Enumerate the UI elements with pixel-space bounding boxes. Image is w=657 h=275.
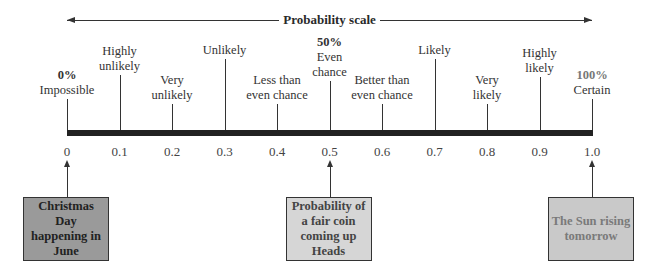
example-text: happening in <box>26 229 106 244</box>
descriptor-text: likely <box>432 88 542 103</box>
example-text: tomorrow <box>552 229 631 244</box>
tick-label: 1.0 <box>572 144 612 160</box>
tick-label: 0.7 <box>415 144 455 160</box>
descriptor-stem <box>172 104 173 130</box>
example-box: Christmas Dayhappening inJune <box>23 197 109 261</box>
percent-label: 50% <box>275 35 385 50</box>
descriptor-label: Verylikely <box>432 73 542 103</box>
descriptor-text: Better than <box>327 73 437 88</box>
probability-scale-header: Probability scale <box>67 13 592 27</box>
example-text: The Sun rising <box>552 214 631 229</box>
example-text: a fair coin <box>289 214 369 229</box>
example-pointer-line <box>330 166 331 197</box>
descriptor-stem <box>382 104 383 130</box>
tick-label: 0.5 <box>310 144 350 160</box>
descriptor-label: Veryunlikely <box>117 73 227 103</box>
example-text: Probability of <box>289 199 369 214</box>
descriptor-label: Better thaneven chance <box>327 73 437 103</box>
descriptor-text: Likely <box>380 43 490 58</box>
descriptor-text: Unlikely <box>170 43 280 58</box>
descriptor-stem <box>487 104 488 130</box>
tick-label: 0.2 <box>152 144 192 160</box>
descriptor-text: Highly <box>65 44 175 59</box>
example-box: The Sun risingtomorrow <box>548 197 634 261</box>
descriptor-text: even chance <box>222 88 332 103</box>
descriptor-text: Even <box>275 50 385 65</box>
descriptor-text: unlikely <box>117 88 227 103</box>
example-text: Christmas Day <box>26 199 106 229</box>
percent-label: 100% <box>537 68 647 83</box>
descriptor-label: Highlyunlikely <box>65 44 175 74</box>
tick-label: 0.4 <box>257 144 297 160</box>
example-box: Probability ofa fair coincoming up Heads <box>286 197 372 261</box>
tick-label: 0.8 <box>467 144 507 160</box>
descriptor-text: Very <box>117 73 227 88</box>
descriptor-stem <box>277 104 278 130</box>
example-pointer-line <box>67 166 68 197</box>
descriptor-text: unlikely <box>65 59 175 74</box>
descriptor-text: Impossible <box>12 83 122 98</box>
tick-label: 0 <box>47 144 87 160</box>
descriptor-text: Highly <box>485 46 595 61</box>
descriptor-stem <box>592 99 593 130</box>
example-pointer-line <box>592 166 593 197</box>
example-text: coming up Heads <box>289 229 369 259</box>
probability-axis-bar <box>67 130 593 136</box>
tick-label: 0.3 <box>205 144 245 160</box>
scale-title: Probability scale <box>279 12 380 27</box>
example-text: June <box>26 244 106 259</box>
descriptor-label: Likely <box>380 43 490 58</box>
tick-label: 0.6 <box>362 144 402 160</box>
descriptor-label: 100%Certain <box>537 68 647 98</box>
tick-label: 0.1 <box>100 144 140 160</box>
descriptor-text: Certain <box>537 83 647 98</box>
descriptor-stem <box>67 99 68 130</box>
descriptor-text: even chance <box>327 88 437 103</box>
descriptor-label: Unlikely <box>170 43 280 58</box>
tick-label: 0.9 <box>520 144 560 160</box>
